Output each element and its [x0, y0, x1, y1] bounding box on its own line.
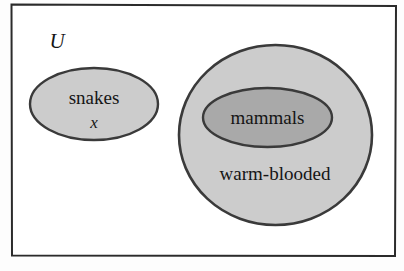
- euler-diagram-canvas: U snakes x mammals warm-blooded: [0, 0, 404, 271]
- set-label-warm-blooded: warm-blooded: [220, 163, 331, 184]
- set-label-mammals: mammals: [231, 107, 305, 128]
- euler-diagram-svg: U snakes x mammals warm-blooded: [0, 0, 404, 271]
- set-label-snakes: snakes: [69, 87, 120, 108]
- universe-label: U: [49, 29, 66, 53]
- element-label-x: x: [89, 113, 98, 132]
